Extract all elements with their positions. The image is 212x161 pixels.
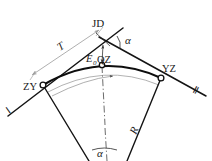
- label-jd: JD: [92, 17, 104, 29]
- label-zy: ZY: [23, 81, 37, 92]
- label-yz: YZ: [162, 63, 176, 74]
- point-marker-yz: [158, 75, 164, 81]
- label-qz: QZ: [97, 54, 111, 65]
- label-alpha-top: α: [125, 34, 131, 46]
- curve-diagram-svg: JD α T E 0 QZ ZY YZ R α Ⅰ Ⅱ: [0, 0, 212, 161]
- label-alpha-bottom: α: [97, 147, 103, 159]
- label-external-distance: E: [85, 53, 93, 64]
- curve-diagram-canvas: JD α T E 0 QZ ZY YZ R α Ⅰ Ⅱ: [0, 0, 212, 161]
- point-marker-zy: [40, 82, 46, 88]
